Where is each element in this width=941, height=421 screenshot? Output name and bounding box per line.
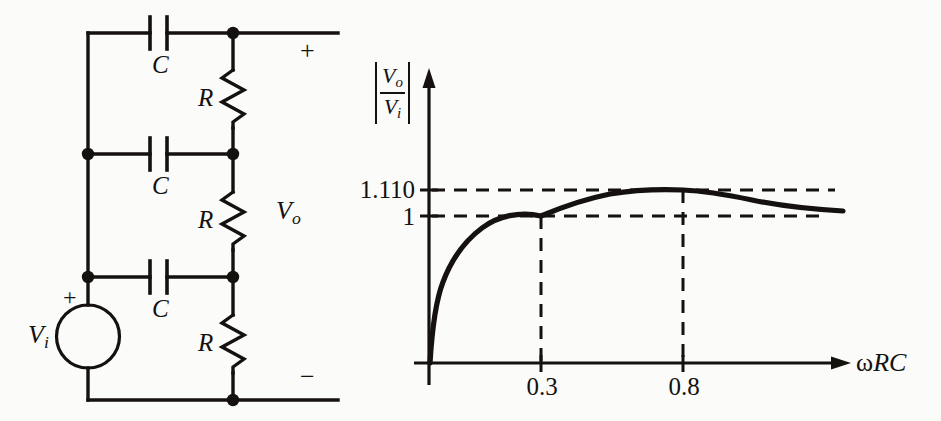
- y-tick-label-1110: 1.110: [353, 177, 415, 202]
- numerator-subscript: o: [395, 74, 402, 90]
- denominator-subscript: i: [397, 105, 401, 121]
- figure-root: C C C R R R Vi + Vo + −: [0, 0, 941, 421]
- x-axis-label: ωRC: [856, 350, 906, 376]
- x-tick-label-03: 0.3: [518, 374, 566, 399]
- y-axis-arrowhead: [423, 68, 436, 88]
- abs-bar-right: [408, 62, 410, 124]
- gain-fraction: Vo Vi: [380, 65, 405, 121]
- y-tick-label-1: 1: [353, 204, 415, 229]
- x-tick-label-08: 0.8: [660, 374, 708, 399]
- frequency-response-plot: [0, 0, 941, 421]
- abs-bar-left: [375, 62, 377, 124]
- gain-denominator: Vi: [382, 94, 404, 121]
- numerator-symbol: V: [382, 63, 395, 88]
- omega-symbol: ω: [856, 348, 873, 377]
- rc-symbol: RC: [873, 348, 906, 377]
- gain-numerator: Vo: [380, 65, 405, 92]
- x-axis-arrowhead: [831, 357, 851, 370]
- y-axis-label: Vo Vi: [372, 62, 413, 124]
- denominator-symbol: V: [384, 94, 397, 119]
